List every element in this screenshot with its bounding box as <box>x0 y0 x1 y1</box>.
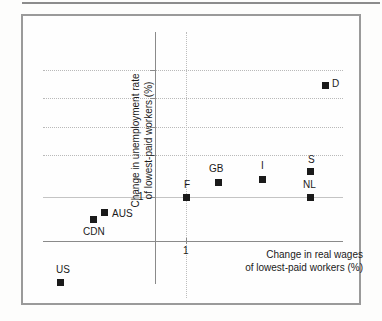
top-divider-rule <box>22 2 380 4</box>
chart-frame <box>21 14 361 305</box>
figure-container: 1 1 D S I GB NL F AUS CDN US Change in u… <box>0 0 382 321</box>
